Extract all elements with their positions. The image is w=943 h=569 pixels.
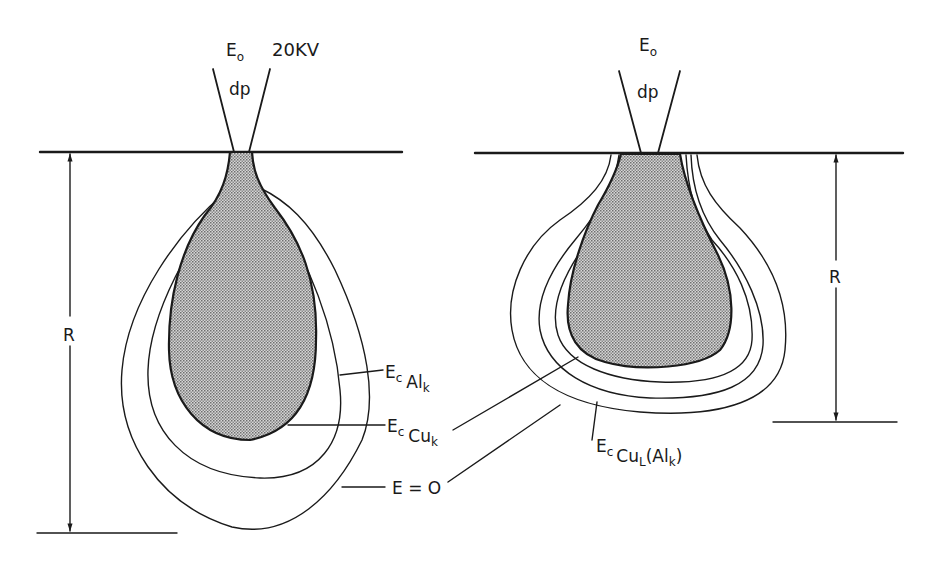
- left-leader-ec-alk: [340, 370, 383, 375]
- right-beam-energy-label: Eo: [639, 35, 657, 59]
- left-range-label: R: [63, 325, 75, 345]
- left-beam-line-right: [249, 69, 270, 152]
- right-leader-e-zero: [448, 405, 560, 482]
- right-region-ec-cul: [568, 154, 732, 367]
- label-ec-cul-alk: EcCuL(Alk): [596, 436, 682, 469]
- left-beam-diameter-label: dp: [229, 79, 251, 99]
- label-ec-cuk: EcCuk: [387, 416, 438, 449]
- right-leader-ec-cul: [592, 402, 597, 440]
- left-beam-energy-label: Eo: [226, 40, 244, 64]
- right-beam-line-right: [658, 71, 680, 153]
- right-beam-diameter-label: dp: [637, 82, 659, 102]
- left-panel: Eo dp R EcAlk EcCuk E = O: [37, 40, 441, 533]
- label-ec-alk: EcAlk: [385, 362, 430, 395]
- left-region-ec-cuk: [169, 152, 316, 440]
- right-range-label: R: [829, 267, 841, 287]
- voltage-title: 20KV: [272, 39, 320, 60]
- right-leader-ec-cuk: [453, 357, 578, 430]
- label-e-zero: E = O: [392, 478, 441, 498]
- interaction-volume-diagram: 20KV Eo dp R EcAlk EcCuk: [0, 0, 943, 569]
- right-panel: Eo dp R EcCuL(Alk): [448, 35, 903, 482]
